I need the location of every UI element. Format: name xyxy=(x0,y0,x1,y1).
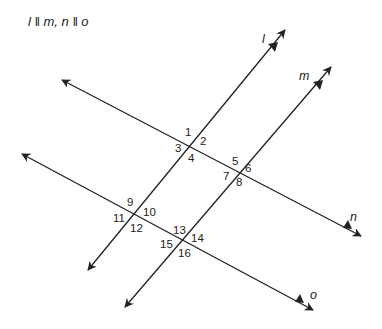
angle-16: 16 xyxy=(178,247,191,259)
line-o xyxy=(22,154,313,310)
line-n xyxy=(62,80,361,236)
angle-1: 1 xyxy=(185,126,191,138)
parallel-marker-o xyxy=(295,294,304,303)
angle-6: 6 xyxy=(245,162,251,174)
parallel-marker-m xyxy=(313,80,323,90)
angle-13: 13 xyxy=(173,224,186,236)
angle-4: 4 xyxy=(188,152,195,164)
angle-5: 5 xyxy=(232,155,238,167)
line-l xyxy=(88,30,285,270)
angle-11: 11 xyxy=(113,212,125,224)
angle-15: 15 xyxy=(160,238,173,250)
angle-2: 2 xyxy=(200,135,206,147)
angle-3: 3 xyxy=(175,142,181,154)
angle-10: 10 xyxy=(143,206,156,218)
angle-9: 9 xyxy=(127,196,133,208)
angle-8: 8 xyxy=(236,176,242,188)
label-l: l xyxy=(262,32,266,46)
label-o: o xyxy=(310,288,317,302)
parallel-lines-diagram: l m n o 1 2 3 4 5 6 7 8 9 10 11 12 13 14… xyxy=(0,0,382,329)
label-n: n xyxy=(350,210,357,224)
label-m: m xyxy=(299,69,309,83)
angle-12: 12 xyxy=(130,222,143,234)
parallel-marker-l xyxy=(268,42,278,52)
angle-7: 7 xyxy=(223,170,229,182)
angle-14: 14 xyxy=(191,232,204,244)
